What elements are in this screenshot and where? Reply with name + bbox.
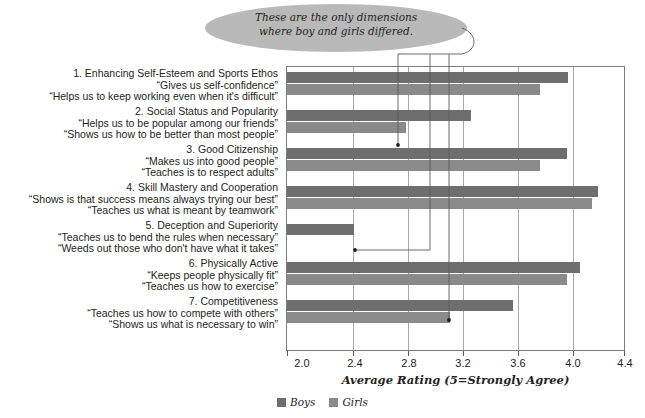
legend-entry-boys: Boys <box>277 396 315 408</box>
tick-label-4-4: 4.4 <box>617 357 632 369</box>
tick-mark-2-8 <box>408 351 409 356</box>
x-axis-title: Average Rating (5=Strongly Agree) <box>286 373 625 387</box>
category-item-4-2: “Teaches us what is meant by teamwork” <box>29 205 278 217</box>
tick-mark-3-6 <box>518 351 519 356</box>
tick-label-2-4: 2.4 <box>347 357 362 369</box>
callout-bubble <box>205 4 467 52</box>
chart-legend: Boys Girls <box>0 396 645 408</box>
category-title-7: 7. Competitiveness <box>87 296 278 308</box>
category-title-1: 1. Enhancing Self-Esteem and Sports Etho… <box>49 68 278 80</box>
tick-label-4-0: 4.0 <box>565 357 580 369</box>
category-label-6: 6. Physically Active “Keeps people physi… <box>142 258 278 293</box>
legend-entry-girls: Girls <box>329 396 368 408</box>
chart-figure: These are the only dimensions where boy … <box>0 0 645 418</box>
bar-boys-2 <box>287 110 471 121</box>
category-title-3: 3. Good Citizenship <box>141 144 278 156</box>
bar-girls-7 <box>287 312 450 323</box>
bars-layer <box>287 67 624 350</box>
category-title-2: 2. Social Status and Popularity <box>64 106 278 118</box>
bar-boys-1 <box>287 72 568 83</box>
category-label-5: 5. Deception and Superiority “Teaches us… <box>58 220 278 255</box>
tick-mark-2-0 <box>287 351 288 356</box>
bar-girls-3 <box>287 160 540 171</box>
category-title-5: 5. Deception and Superiority <box>58 220 278 232</box>
tick-mark-4-0 <box>573 351 574 356</box>
category-item-3-2: “Teaches is to respect adults” <box>141 167 278 179</box>
tick-mark-4-4 <box>624 351 625 356</box>
tick-mark-2-4 <box>353 351 354 356</box>
tick-label-3-6: 3.6 <box>510 357 525 369</box>
bar-girls-1 <box>287 84 540 95</box>
tick-mark-3-2 <box>463 351 464 356</box>
category-item-7-2: “Shows us what is necessary to win” <box>87 319 278 331</box>
legend-label-boys: Boys <box>290 396 315 408</box>
category-labels: 1. Enhancing Self-Esteem and Sports Etho… <box>0 66 282 351</box>
tick-label-2-0: 2.0 <box>294 357 309 369</box>
legend-swatch-girls <box>329 398 338 407</box>
bar-boys-7 <box>287 300 513 311</box>
category-item-1-2: “Helps us to keep working even when it's… <box>49 91 278 103</box>
tick-label-3-2: 3.2 <box>455 357 470 369</box>
category-item-5-2: “Weeds out those who don't have what it … <box>58 243 278 255</box>
bar-boys-6 <box>287 262 580 273</box>
category-label-7: 7. Competitiveness “Teaches us how to co… <box>87 296 278 331</box>
bar-girls-4 <box>287 198 592 209</box>
legend-swatch-boys <box>277 398 286 407</box>
legend-label-girls: Girls <box>342 396 368 408</box>
category-item-2-2: “Shows us how to be better than most peo… <box>64 129 278 141</box>
tick-label-2-8: 2.8 <box>401 357 416 369</box>
category-title-4: 4. Skill Mastery and Cooperation <box>29 182 278 194</box>
bar-girls-2 <box>287 122 406 133</box>
category-label-2: 2. Social Status and Popularity “Helps u… <box>64 106 278 141</box>
category-label-1: 1. Enhancing Self-Esteem and Sports Etho… <box>49 68 278 103</box>
bar-girls-6 <box>287 274 567 285</box>
category-label-4: 4. Skill Mastery and Cooperation “Shows … <box>29 182 278 217</box>
category-label-3: 3. Good Citizenship “Makes us into good … <box>141 144 278 179</box>
bar-boys-3 <box>287 148 567 159</box>
bar-boys-4 <box>287 186 598 197</box>
bar-boys-5 <box>287 224 354 235</box>
category-item-6-2: “Teaches us how to exercise” <box>142 281 278 293</box>
category-title-6: 6. Physically Active <box>142 258 278 270</box>
